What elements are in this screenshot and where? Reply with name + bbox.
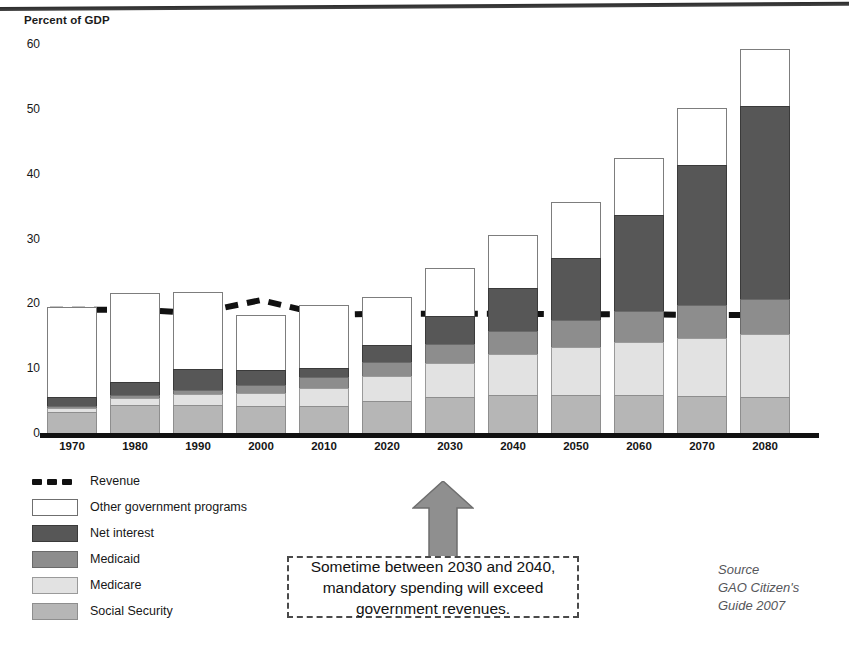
y-tick-20: 20	[6, 296, 40, 310]
social-security-swatch-icon	[32, 603, 78, 620]
segment-mcaid-2000	[236, 385, 286, 393]
chart-legend: Revenue Other government programs Net in…	[32, 468, 247, 624]
medicare-swatch-icon	[32, 577, 78, 594]
segment-ss-2080	[740, 397, 790, 433]
segment-mcaid-2030	[425, 344, 475, 363]
segment-ni-2040	[488, 288, 538, 330]
bar-2070	[677, 0, 727, 433]
x-tick-1970: 1970	[42, 440, 102, 452]
segment-ss-2000	[236, 406, 286, 433]
callout-text: Sometime between 2030 and 2040, mandator…	[305, 556, 562, 619]
legend-item-revenue: Revenue	[32, 468, 247, 494]
segment-mcaid-2070	[677, 305, 727, 338]
segment-mcare-2040	[488, 354, 538, 395]
legend-label-revenue: Revenue	[90, 474, 140, 488]
segment-mcare-2080	[740, 334, 790, 396]
segment-mcaid-2020	[362, 362, 412, 376]
segment-other-1980	[110, 293, 160, 382]
segment-ni-2060	[614, 215, 664, 311]
x-tick-1990: 1990	[168, 440, 228, 452]
bar-2080	[740, 0, 790, 433]
segment-ni-1980	[110, 382, 160, 394]
segment-mcare-1990	[173, 394, 223, 405]
x-tick-2040: 2040	[483, 440, 543, 452]
segment-other-2070	[677, 108, 727, 166]
up-arrow-icon	[412, 481, 474, 557]
segment-ni-2010	[299, 368, 349, 377]
source-line-2: GAO Citizen's	[718, 579, 799, 597]
segment-ni-2080	[740, 106, 790, 299]
bar-2040	[488, 0, 538, 433]
legend-label-social-security: Social Security	[90, 604, 173, 618]
bar-2010	[299, 0, 349, 433]
bar-2060	[614, 0, 664, 433]
segment-mcare-2060	[614, 342, 664, 396]
segment-other-1970	[47, 307, 97, 397]
segment-mcaid-2040	[488, 331, 538, 354]
segment-ni-1970	[47, 397, 97, 406]
x-tick-2060: 2060	[609, 440, 669, 452]
segment-ss-2010	[299, 406, 349, 433]
segment-other-2000	[236, 315, 286, 370]
segment-ss-1970	[47, 412, 97, 433]
bar-1970	[47, 0, 97, 433]
segment-ni-2050	[551, 258, 601, 320]
y-tick-0: 0	[6, 426, 40, 440]
segment-other-2080	[740, 49, 790, 106]
source-attribution: Source GAO Citizen's Guide 2007	[718, 561, 799, 615]
legend-item-social-security: Social Security	[32, 598, 247, 624]
segment-ss-2040	[488, 395, 538, 433]
legend-label-net-interest: Net interest	[90, 526, 154, 540]
x-tick-1980: 1980	[105, 440, 165, 452]
segment-ss-1980	[110, 405, 160, 433]
segment-ni-2070	[677, 165, 727, 304]
legend-item-net-interest: Net interest	[32, 520, 247, 546]
x-tick-2010: 2010	[294, 440, 354, 452]
segment-mcare-2070	[677, 338, 727, 396]
bar-2050	[551, 0, 601, 433]
callout-line-2: mandatory spending will exceed	[323, 579, 544, 596]
x-tick-2080: 2080	[735, 440, 795, 452]
segment-other-2010	[299, 305, 349, 369]
segment-ss-1990	[173, 405, 223, 433]
segment-ni-2030	[425, 316, 475, 344]
segment-mcare-2050	[551, 347, 601, 395]
bar-2020	[362, 0, 412, 433]
x-tick-2020: 2020	[357, 440, 417, 452]
legend-label-medicaid: Medicaid	[90, 552, 140, 566]
segment-ni-1990	[173, 369, 223, 390]
segment-other-2030	[425, 268, 475, 317]
bar-2000	[236, 0, 286, 433]
source-line-1: Source	[718, 561, 799, 579]
net-interest-swatch-icon	[32, 525, 78, 542]
x-tick-2070: 2070	[672, 440, 732, 452]
segment-mcare-2030	[425, 363, 475, 397]
segment-other-2020	[362, 297, 412, 345]
callout-line-3: government revenues.	[356, 600, 510, 617]
segment-mcare-1980	[110, 398, 160, 405]
segment-ni-2020	[362, 345, 412, 362]
segment-ss-2020	[362, 401, 412, 433]
segment-mcare-2020	[362, 376, 412, 401]
segment-mcaid-2050	[551, 320, 601, 347]
segment-other-2040	[488, 235, 538, 288]
legend-item-medicare: Medicare	[32, 572, 247, 598]
y-tick-40: 40	[6, 167, 40, 181]
callout-box: Sometime between 2030 and 2040, mandator…	[287, 556, 579, 618]
x-tick-2000: 2000	[231, 440, 291, 452]
segment-other-2060	[614, 158, 664, 216]
y-tick-50: 50	[6, 102, 40, 116]
segment-mcare-2010	[299, 388, 349, 406]
legend-item-medicaid: Medicaid	[32, 546, 247, 572]
legend-label-medicare: Medicare	[90, 578, 141, 592]
revenue-dash-swatch-icon	[32, 473, 78, 490]
segment-mcare-2000	[236, 393, 286, 407]
medicaid-swatch-icon	[32, 551, 78, 568]
segment-other-1990	[173, 292, 223, 369]
y-tick-30: 30	[6, 232, 40, 246]
bar-1990	[173, 0, 223, 433]
segment-ss-2050	[551, 395, 601, 433]
segment-ss-2070	[677, 396, 727, 433]
segment-ss-2060	[614, 395, 664, 433]
segment-mcaid-2010	[299, 377, 349, 387]
